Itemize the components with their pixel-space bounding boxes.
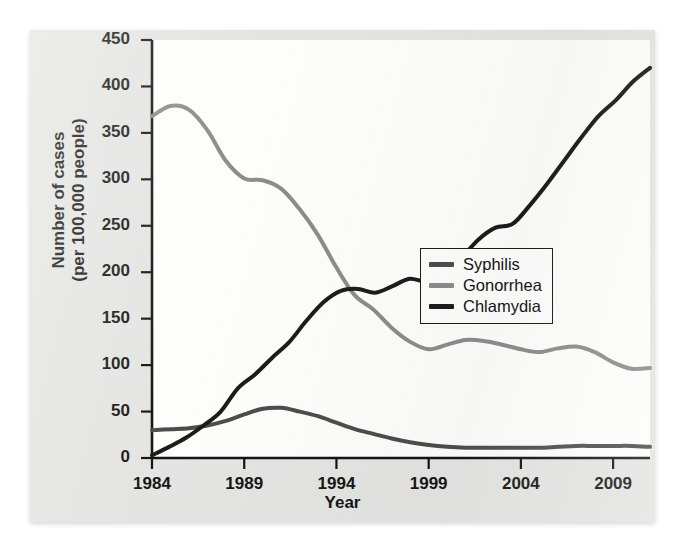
legend-item-gonorrhea: Gonorrhea <box>429 275 542 296</box>
y-tick-label-150: 150 <box>68 308 130 328</box>
x-tick-label-1994: 1994 <box>296 474 376 494</box>
legend-swatch-gonorrhea-icon <box>429 283 454 288</box>
series-line-syphilis <box>152 408 650 448</box>
legend-swatch-chlamydia-icon <box>429 304 454 309</box>
legend-item-chlamydia: Chlamydia <box>429 296 542 317</box>
x-tick-label-1999: 1999 <box>389 474 469 494</box>
x-axis-title: Year <box>30 493 655 513</box>
figure-panel: Number of cases (per 100,000 people) Yea… <box>30 30 655 522</box>
y-tick-label-50: 50 <box>68 401 130 421</box>
data-series-lines <box>152 68 650 455</box>
y-tick-label-0: 0 <box>68 447 130 467</box>
y-tick-label-350: 350 <box>68 122 130 142</box>
y-axis-ticks <box>141 40 152 458</box>
y-tick-label-250: 250 <box>68 215 130 235</box>
legend-swatch-syphilis-icon <box>429 262 454 267</box>
y-tick-label-200: 200 <box>68 261 130 281</box>
series-line-chlamydia <box>152 68 650 455</box>
legend-item-syphilis: Syphilis <box>429 254 542 275</box>
legend-label-gonorrhea: Gonorrhea <box>463 276 542 295</box>
y-tick-label-300: 300 <box>68 168 130 188</box>
axis-lines <box>152 40 650 458</box>
x-tick-label-1989: 1989 <box>204 474 284 494</box>
x-tick-label-2009: 2009 <box>573 474 653 494</box>
x-tick-label-2004: 2004 <box>481 474 561 494</box>
cropped-caption-text <box>0 0 691 14</box>
y-tick-label-450: 450 <box>68 29 130 49</box>
x-tick-label-1984: 1984 <box>112 474 192 494</box>
y-axis-title-line1: Number of cases <box>49 35 69 365</box>
y-tick-label-100: 100 <box>68 354 130 374</box>
caption-sliver-glyphs <box>6 0 10 4</box>
legend-label-chlamydia: Chlamydia <box>463 297 541 316</box>
legend-label-syphilis: Syphilis <box>463 255 520 274</box>
chart-legend: SyphilisGonorrheaChlamydia <box>420 248 553 324</box>
x-axis-ticks <box>152 458 613 469</box>
y-tick-label-400: 400 <box>68 75 130 95</box>
